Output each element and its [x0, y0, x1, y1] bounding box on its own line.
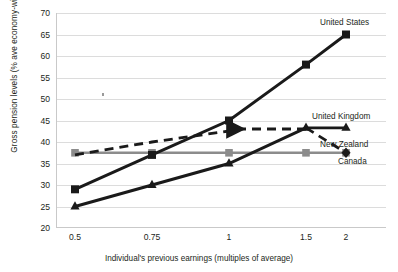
series-label-united-states: United States [320, 18, 369, 27]
marker-us-0.75 [148, 151, 156, 159]
marker-us-1.5 [302, 61, 310, 69]
marker-us-0.5 [71, 185, 79, 193]
x-tick-0.5: 0.5 [69, 233, 81, 242]
y-axis-title: Gross pension levels (% ave economy-wide… [10, 0, 19, 163]
series-label-united-kingdom: United Kingdom [312, 112, 370, 121]
y-tick-60: 60 [20, 52, 50, 61]
x-tick-1: 1 [227, 233, 232, 242]
y-tick-35: 35 [20, 160, 50, 169]
series-label-canada: Canada [338, 157, 367, 166]
series-label-new-zealand: New Zealand [320, 140, 368, 149]
y-tick-20: 20 [20, 224, 50, 233]
y-tick-70: 70 [20, 9, 50, 18]
marker-nz-1 [225, 149, 233, 157]
y-tick-65: 65 [20, 31, 50, 40]
chart-container: Gross pension levels (% ave economy-wide… [0, 0, 398, 272]
x-tick-0.75: 0.75 [144, 233, 161, 242]
marker-us-2 [342, 31, 350, 39]
x-tick-1.5: 1.5 [300, 233, 312, 242]
y-tick-40: 40 [20, 138, 50, 147]
y-tick-25: 25 [20, 203, 50, 212]
y-tick-30: 30 [20, 181, 50, 190]
x-axis-title: Individual's previous earnings (multiple… [0, 254, 398, 263]
marker-nz-1.5 [302, 149, 310, 157]
y-tick-50: 50 [20, 95, 50, 104]
y-tick-55: 55 [20, 74, 50, 83]
marker-us-1 [225, 117, 233, 125]
x-tick-2: 2 [344, 233, 349, 242]
y-tick-45: 45 [20, 117, 50, 126]
series-new-zealand [71, 149, 350, 157]
series-canada [70, 128, 350, 210]
